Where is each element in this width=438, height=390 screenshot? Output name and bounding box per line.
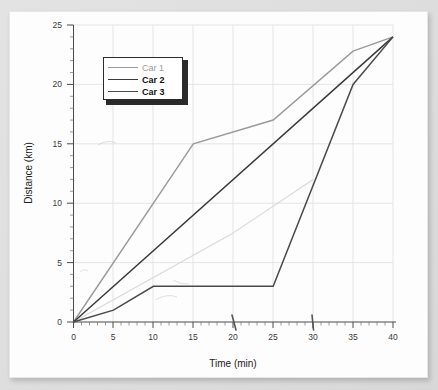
x-tick-label: 40	[388, 332, 398, 342]
x-tick-label: 10	[148, 332, 158, 342]
scan-smudges	[80, 141, 189, 300]
x-axis-title: Time (min)	[209, 358, 256, 369]
x-tick-label: 25	[268, 332, 278, 342]
app-root: 0 5 10 15 20 25 0 5 10 15 20 25 30 35	[0, 0, 438, 390]
legend-swatch-car-2	[108, 79, 138, 80]
chart-canvas: 0 5 10 15 20 25 0 5 10 15 20 25 30 35	[10, 12, 427, 377]
y-tick-label: 10	[53, 198, 63, 208]
y-tick-label: 15	[53, 139, 63, 149]
x-tick-label: 20	[228, 332, 238, 342]
legend-item-car-2[interactable]: Car 2	[108, 74, 178, 85]
x-tick-label: 15	[188, 332, 198, 342]
x-axis-ticks	[74, 322, 394, 328]
y-axis-title: Distance (km)	[23, 142, 34, 204]
chart-legend[interactable]: Car 1 Car 2 Car 3	[103, 57, 185, 102]
legend-item-car-1[interactable]: Car 1	[108, 62, 178, 73]
y-tick-labels: 0 5 10 15 20 25	[53, 20, 63, 327]
y-tick-label: 20	[53, 79, 63, 89]
x-tick-labels: 0 5 10 15 20 25 30 35 40	[71, 332, 398, 342]
legend-item-car-3[interactable]: Car 3	[108, 86, 178, 97]
y-tick-label: 0	[57, 317, 62, 327]
legend-label-car-2: Car 2	[142, 75, 165, 85]
chart-figure: 0 5 10 15 20 25 0 5 10 15 20 25 30 35	[10, 12, 427, 377]
x-tick-label: 30	[308, 332, 318, 342]
y-tick-label: 5	[57, 258, 62, 268]
legend-label-car-1: Car 1	[142, 63, 164, 73]
x-tick-label: 0	[71, 332, 76, 342]
chart-paper-card: 0 5 10 15 20 25 0 5 10 15 20 25 30 35	[9, 11, 428, 378]
x-tick-label: 35	[348, 332, 358, 342]
x-tick-label: 5	[111, 332, 116, 342]
y-axis-ticks	[67, 25, 74, 322]
legend-swatch-car-1	[108, 67, 138, 68]
legend-label-car-3: Car 3	[142, 87, 165, 97]
legend-frame: Car 1 Car 2 Car 3	[103, 57, 183, 100]
legend-swatch-car-3	[108, 91, 138, 92]
y-tick-label: 25	[53, 20, 63, 30]
